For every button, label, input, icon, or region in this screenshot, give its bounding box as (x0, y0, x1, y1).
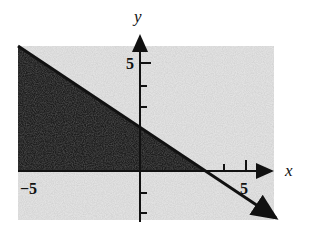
inequality-graph: y x 5 −5 5 (0, 0, 311, 235)
x-tick-label-5: 5 (240, 180, 248, 197)
x-axis-label: x (284, 161, 293, 180)
y-tick-label-5: 5 (126, 55, 134, 72)
y-axis-label: y (132, 7, 142, 26)
x-tick-label-neg5: −5 (20, 180, 37, 197)
